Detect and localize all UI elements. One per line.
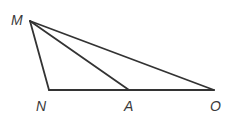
label-N: N (36, 98, 47, 114)
triangle-diagram: M N A O (0, 0, 231, 117)
label-A: A (123, 98, 133, 114)
label-M: M (11, 12, 23, 28)
segment-MA (30, 21, 129, 90)
segment-MO (30, 21, 214, 90)
label-O: O (210, 98, 221, 114)
